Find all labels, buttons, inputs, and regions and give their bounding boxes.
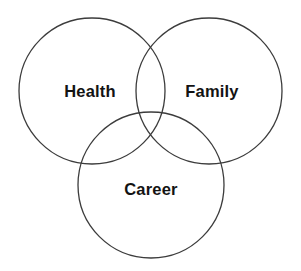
venn-diagram: Health Family Career (0, 0, 301, 271)
label-career: Career (124, 180, 178, 198)
label-health: Health (64, 82, 116, 100)
label-family: Family (185, 82, 239, 100)
venn-diagram-canvas: Health Family Career (0, 0, 301, 271)
